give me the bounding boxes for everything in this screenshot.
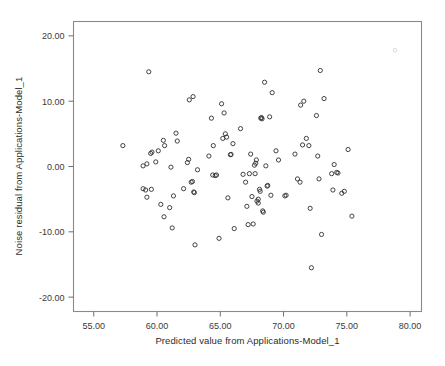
x-axis-title: Predicted value from Applications-Model_… [155, 335, 339, 346]
y-tick-label: 20.00 [42, 31, 65, 41]
y-axis-title: Noise residual from Applications-Model_1 [13, 77, 24, 256]
y-tick-label: 10.00 [42, 97, 65, 107]
x-tick-label: 60.00 [146, 321, 169, 331]
x-tick-label: 65.00 [209, 321, 232, 331]
x-tick-label: 70.00 [272, 321, 295, 331]
y-tick-label: -20.00 [39, 293, 65, 303]
plot-frame [74, 22, 422, 312]
x-tick-label: 75.00 [336, 321, 359, 331]
scatter-plot-canvas: 55.0060.0065.0070.0075.0080.00 20.0010.0… [0, 0, 445, 366]
y-tick-label: -10.00 [39, 227, 65, 237]
x-tick-label: 80.00 [399, 321, 422, 331]
y-tick-label: 0.00 [47, 162, 65, 172]
scatter-plot-figure: 55.0060.0065.0070.0075.0080.00 20.0010.0… [0, 0, 445, 366]
x-tick-label: 55.00 [82, 321, 105, 331]
